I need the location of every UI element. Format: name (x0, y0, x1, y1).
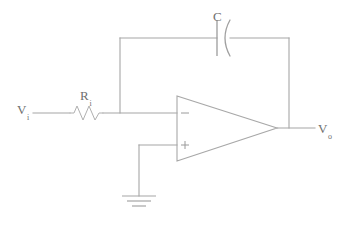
label-feedback-capacitor-symbol: C (213, 9, 222, 24)
label-output-voltage-symbol: V (318, 121, 328, 136)
label-input-resistor-subscript: i (89, 99, 91, 108)
label-input-voltage: Vi (17, 101, 29, 120)
opamp-triangle (177, 96, 277, 161)
capacitor-plate-curved (225, 20, 230, 56)
label-input-voltage-symbol: V (17, 102, 27, 117)
label-input-resistor-symbol: R (80, 88, 89, 103)
circuit-diagram: Vi Ri C Vo (0, 0, 352, 226)
input-resistor-symbol (70, 106, 103, 120)
circuit-schematic-svg (0, 0, 352, 226)
label-output-voltage-subscript: o (328, 132, 332, 141)
label-input-resistor: Ri (80, 87, 91, 106)
label-feedback-capacitor: C (213, 8, 222, 27)
label-output-voltage: Vo (318, 120, 332, 139)
label-input-voltage-subscript: i (27, 113, 29, 122)
